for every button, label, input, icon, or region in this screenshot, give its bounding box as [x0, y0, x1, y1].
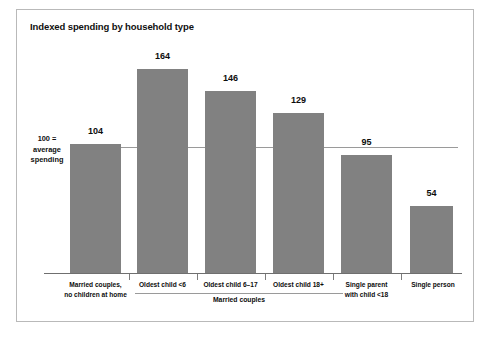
bar-value-164: 164	[137, 51, 188, 61]
bar-value-104: 104	[70, 126, 121, 136]
bar-oldest-child-18-plus	[273, 113, 324, 273]
category-label-single-person: Single person	[398, 280, 468, 290]
bar-value-129: 129	[273, 95, 324, 105]
category-label-oldest-child-18-plus: Oldest child 18+	[259, 280, 338, 290]
group-bracket-rule	[135, 293, 343, 294]
bar-married-no-children	[70, 144, 121, 273]
bar-single-parent-child-under-18	[341, 155, 392, 273]
bar-value-95: 95	[341, 137, 392, 147]
category-label-line-1: Single parent	[329, 280, 404, 290]
bar-single-person	[410, 206, 453, 273]
category-label-line-2: no children at home	[50, 290, 141, 300]
baseline-axis	[44, 273, 462, 274]
chart-figure: Indexed spending by household type 100 =…	[16, 9, 474, 322]
bar-oldest-child-6-17	[205, 91, 256, 273]
group-bracket-label: Married couples	[135, 296, 343, 303]
reference-line-100	[71, 147, 458, 148]
category-label-line-1: Oldest child 18+	[259, 280, 338, 290]
reference-label-line-3: spending	[25, 155, 69, 166]
bar-value-54: 54	[410, 188, 453, 198]
reference-label-line-1: 100 =	[25, 134, 69, 145]
bar-value-146: 146	[205, 73, 256, 83]
reference-line-label: 100 = average spending	[25, 134, 69, 166]
category-label-line-1: Single person	[398, 280, 468, 290]
plot-area: 100 = average spending 104 164 146 129 9…	[17, 10, 475, 323]
reference-label-line-2: average	[25, 145, 69, 156]
bar-oldest-child-under-6	[137, 69, 188, 273]
